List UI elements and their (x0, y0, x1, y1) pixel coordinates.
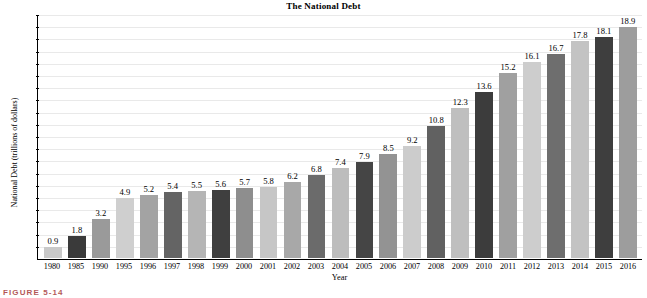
bar-slot[interactable]: 0.9 (41, 15, 65, 258)
bar[interactable] (308, 175, 326, 258)
x-axis-tick-label: 2013 (544, 262, 568, 271)
x-axis-tick-label: 2006 (376, 262, 400, 271)
bar[interactable] (284, 182, 302, 258)
x-axis-tick-label: 2004 (328, 262, 352, 271)
bar-slot[interactable]: 5.8 (257, 15, 281, 258)
bar[interactable] (547, 54, 565, 258)
x-axis-tick-label: 2015 (592, 262, 616, 271)
x-axis-title: Year (37, 273, 642, 282)
bar[interactable] (475, 92, 493, 258)
x-axis-tick-label: 2005 (352, 262, 376, 271)
y-axis-title: National Debt (trillions of dollars) (10, 93, 19, 213)
bar[interactable] (499, 73, 517, 258)
bar[interactable] (260, 187, 278, 258)
bar[interactable] (451, 108, 469, 258)
bar-slot[interactable]: 18.1 (592, 15, 616, 258)
x-axis-tick-label: 2014 (568, 262, 592, 271)
x-axis-tick-label: 2010 (472, 262, 496, 271)
x-axis-tick-label: 1999 (208, 262, 232, 271)
bar-slot[interactable]: 17.8 (568, 15, 592, 258)
bar-slot[interactable]: 18.9 (616, 15, 640, 258)
bar-slot[interactable]: 6.8 (304, 15, 328, 258)
bar[interactable] (403, 146, 421, 258)
bar[interactable] (164, 192, 182, 258)
x-axis-tick-label: 1998 (184, 262, 208, 271)
bar-slot[interactable]: 5.6 (209, 15, 233, 258)
x-axis-tick-label: 2007 (400, 262, 424, 271)
bar[interactable] (523, 62, 541, 258)
bar[interactable] (427, 126, 445, 258)
x-axis-tick-label: 2001 (256, 262, 280, 271)
bar[interactable] (571, 41, 589, 258)
bar[interactable] (44, 247, 62, 258)
x-axis-tick-label: 2000 (232, 262, 256, 271)
bar-slot[interactable]: 5.2 (137, 15, 161, 258)
bar[interactable] (595, 37, 613, 258)
bar-slot[interactable]: 7.4 (328, 15, 352, 258)
bar-slot[interactable]: 5.5 (185, 15, 209, 258)
bar[interactable] (212, 190, 230, 258)
bar-series: 0.91.83.24.95.25.45.55.65.75.86.26.87.47… (39, 15, 642, 258)
x-axis-tick-label: 1990 (88, 262, 112, 271)
bar[interactable] (68, 236, 86, 258)
x-axis-tick-label: 2002 (280, 262, 304, 271)
x-axis-tick-label: 1980 (40, 262, 64, 271)
bar[interactable] (619, 27, 637, 258)
bar-slot[interactable]: 9.2 (400, 15, 424, 258)
bar[interactable] (356, 162, 374, 258)
x-axis-tick-label: 1995 (112, 262, 136, 271)
chart-title: The National Debt (0, 1, 647, 11)
x-axis-tick-label: 2003 (304, 262, 328, 271)
x-axis-tick-label: 2008 (424, 262, 448, 271)
bar-slot[interactable]: 5.7 (233, 15, 257, 258)
x-axis-tick-labels: 1980198519901995199619971998199920002001… (38, 262, 642, 271)
bar-slot[interactable]: 4.9 (113, 15, 137, 258)
x-axis-tick-label: 2011 (496, 262, 520, 271)
bar-slot[interactable]: 12.3 (448, 15, 472, 258)
bar-value-label: 18.9 (608, 17, 647, 26)
x-axis-tick-label: 2016 (616, 262, 640, 271)
bar-slot[interactable]: 3.2 (89, 15, 113, 258)
bar-slot[interactable]: 7.9 (352, 15, 376, 258)
bar[interactable] (332, 168, 350, 258)
bar-slot[interactable]: 6.2 (281, 15, 305, 258)
x-axis-tick-label: 1997 (160, 262, 184, 271)
bar[interactable] (116, 198, 134, 258)
bar[interactable] (140, 195, 158, 258)
figure-caption: FIGURE 5-14 (3, 288, 64, 297)
bar-slot[interactable]: 13.6 (472, 15, 496, 258)
bar-slot[interactable]: 1.8 (65, 15, 89, 258)
x-axis-tick-label: 2012 (520, 262, 544, 271)
plot-area: 2019181716151413121110987654321 0.91.83.… (37, 15, 642, 260)
bar[interactable] (188, 191, 206, 258)
bar-slot[interactable]: 10.8 (424, 15, 448, 258)
bar[interactable] (379, 154, 397, 258)
bar-slot[interactable]: 5.4 (161, 15, 185, 258)
x-axis-tick-label: 1985 (64, 262, 88, 271)
bar[interactable] (236, 188, 254, 258)
bar-slot[interactable]: 16.7 (544, 15, 568, 258)
x-axis-tick-label: 1996 (136, 262, 160, 271)
x-axis-tick-label: 2009 (448, 262, 472, 271)
bar[interactable] (92, 219, 110, 258)
